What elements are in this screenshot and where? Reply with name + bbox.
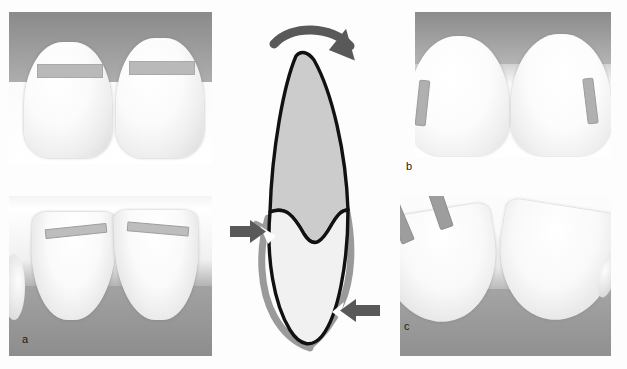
tooth-cross-section-diagram xyxy=(228,12,394,360)
dental-figure: a b c xyxy=(0,0,627,369)
incisor-right xyxy=(116,38,204,158)
panel-c-photo xyxy=(400,196,611,356)
panel-label-a: a xyxy=(22,333,28,345)
right-pointer-arrow xyxy=(340,299,380,322)
rotation-arrow xyxy=(274,26,365,61)
panel-a-bottom-photo xyxy=(9,196,212,356)
panel-label-c: c xyxy=(404,320,410,332)
incisor-left xyxy=(24,42,112,158)
panel-a-top-photo xyxy=(9,12,212,164)
reference-band-c-1 xyxy=(400,197,415,245)
panel-label-b: b xyxy=(406,160,412,172)
reference-band-horizontal-right xyxy=(129,61,195,75)
panel-b-photo xyxy=(415,12,611,157)
reference-band-c-2 xyxy=(426,196,454,230)
reference-band-horizontal-left xyxy=(37,64,103,78)
